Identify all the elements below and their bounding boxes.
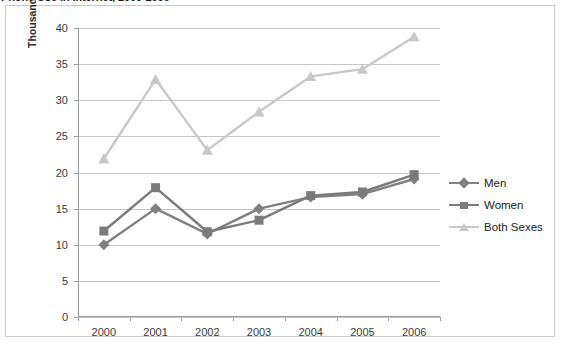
chart-legend: MenWomenBoth Sexes bbox=[449, 172, 554, 238]
y-tick-label: 5 bbox=[62, 275, 68, 287]
chart-page: Phone Use in Internet, 2000-2006 Thousan… bbox=[0, 0, 564, 343]
legend-item-men[interactable]: Men bbox=[449, 172, 554, 194]
legend-item-both-sexes[interactable]: Both Sexes bbox=[449, 216, 554, 238]
x-tick-label: 2003 bbox=[247, 326, 271, 338]
series-layer bbox=[78, 28, 440, 317]
data-point-marker bbox=[255, 216, 264, 225]
x-tick-label: 2001 bbox=[143, 326, 167, 338]
data-point-marker bbox=[306, 191, 315, 200]
data-point-marker bbox=[254, 203, 265, 214]
legend-item-women[interactable]: Women bbox=[449, 194, 554, 216]
y-tick-label: 25 bbox=[56, 130, 68, 142]
gridline bbox=[78, 317, 440, 318]
x-tick-label: 2005 bbox=[350, 326, 374, 338]
series-both-sexes bbox=[98, 31, 419, 163]
y-tick-label: 30 bbox=[56, 94, 68, 106]
x-tick-label: 2006 bbox=[402, 326, 426, 338]
y-tick-label: 40 bbox=[56, 22, 68, 34]
series-men bbox=[98, 174, 419, 251]
data-point-marker bbox=[203, 227, 212, 236]
legend-swatch-icon bbox=[449, 221, 479, 233]
legend-item-label: Men bbox=[484, 177, 506, 189]
y-tick-label: 20 bbox=[56, 167, 68, 179]
y-tick-label: 10 bbox=[56, 239, 68, 251]
y-tick-label: 15 bbox=[56, 203, 68, 215]
series-line bbox=[104, 37, 414, 159]
chart-frame: Thousands 0510152025303540 2000200120022… bbox=[5, 5, 555, 337]
x-tick-label: 2000 bbox=[92, 326, 116, 338]
legend-swatch-icon bbox=[449, 199, 479, 211]
y-tick-label: 0 bbox=[62, 311, 68, 323]
x-tick-label: 2004 bbox=[298, 326, 322, 338]
y-axis-title: Thousands bbox=[26, 0, 38, 48]
data-point-marker bbox=[151, 183, 160, 192]
x-tick-mark bbox=[440, 317, 441, 321]
data-point-marker bbox=[358, 188, 367, 197]
data-point-marker bbox=[409, 31, 420, 41]
data-point-marker bbox=[410, 170, 419, 179]
legend-swatch-icon bbox=[449, 177, 479, 189]
legend-item-label: Both Sexes bbox=[484, 221, 543, 233]
plot-area bbox=[78, 28, 440, 317]
data-point-marker bbox=[99, 227, 108, 236]
data-point-marker bbox=[150, 74, 161, 84]
y-tick-label: 35 bbox=[56, 58, 68, 70]
x-tick-label: 2002 bbox=[195, 326, 219, 338]
legend-item-label: Women bbox=[484, 199, 523, 211]
